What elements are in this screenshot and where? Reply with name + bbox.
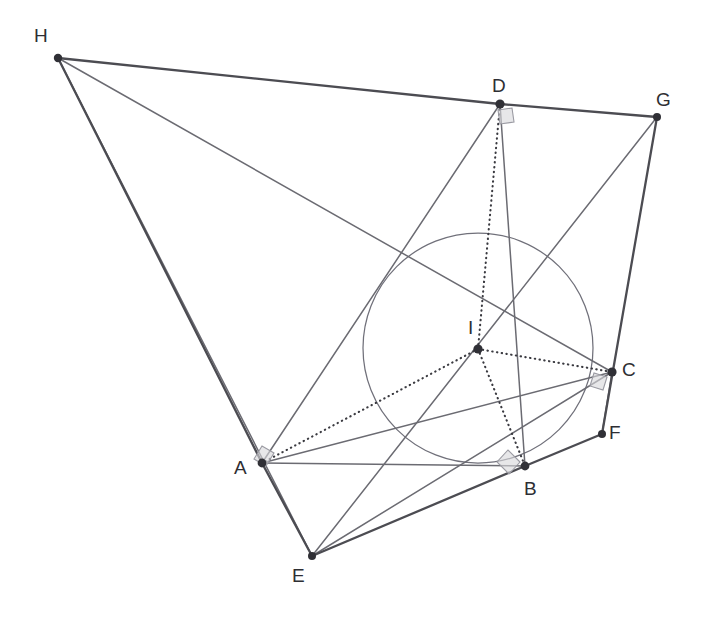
geometry-canvas [0, 0, 708, 625]
right-angle-C [590, 373, 607, 390]
segment-F-B [525, 434, 602, 466]
vertex-dot-F [598, 430, 606, 438]
dotted-radii-group [262, 104, 612, 466]
vertex-dot-D [495, 99, 504, 108]
segment-A-C [262, 372, 612, 463]
point-label-I: I [468, 318, 473, 337]
point-label-E: E [292, 566, 305, 585]
geometry-figure: A B C D E F G H I [0, 0, 708, 625]
segment-H-D [58, 58, 500, 104]
vertex-dot-C [607, 367, 616, 376]
vertex-dot-H [54, 54, 62, 62]
segment-A-B [262, 463, 525, 466]
point-label-C: C [622, 360, 636, 379]
thick-segments-group [58, 58, 657, 556]
segment-E-A [262, 463, 312, 556]
point-label-A: A [234, 458, 247, 477]
vertex-dot-B [521, 462, 530, 471]
vertex-dot-G [653, 113, 661, 121]
segment-D-G [500, 104, 657, 117]
point-label-F: F [609, 423, 621, 442]
segment-H-C [58, 58, 612, 372]
point-label-G: G [656, 90, 671, 109]
vertex-dot-E [308, 552, 316, 560]
vertex-dots-group [54, 54, 661, 560]
segment-B-E [312, 466, 525, 556]
point-label-B: B [524, 479, 537, 498]
radius-I-A [262, 349, 478, 463]
vertex-dot-A [258, 459, 267, 468]
segment-A-H [58, 58, 262, 463]
radius-I-D [478, 104, 500, 349]
right-angle-D [498, 108, 514, 124]
thin-segments-group [58, 58, 657, 556]
point-label-H: H [34, 26, 48, 45]
segment-G-F [602, 117, 657, 434]
point-label-D: D [492, 76, 506, 95]
vertex-dot-I [473, 344, 482, 353]
